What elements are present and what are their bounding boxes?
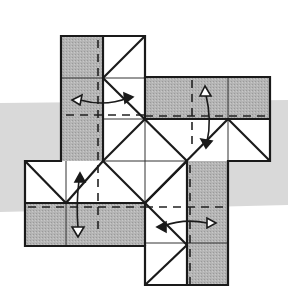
origami-diagram: [0, 0, 288, 302]
